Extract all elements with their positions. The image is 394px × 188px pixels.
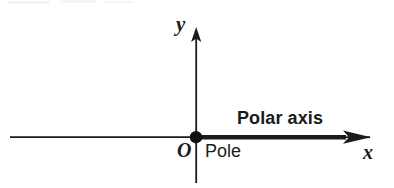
x-axis-label: x xyxy=(363,142,373,162)
pole-label: Pole xyxy=(205,142,241,160)
origin-label: O xyxy=(177,140,191,160)
axes-drawing xyxy=(0,0,394,188)
polar-axis-label: Polar axis xyxy=(237,109,323,127)
y-axis-label: y xyxy=(176,14,185,35)
polar-coordinate-diagram: y x O Pole Polar axis xyxy=(0,0,394,188)
pole-point xyxy=(190,131,202,143)
